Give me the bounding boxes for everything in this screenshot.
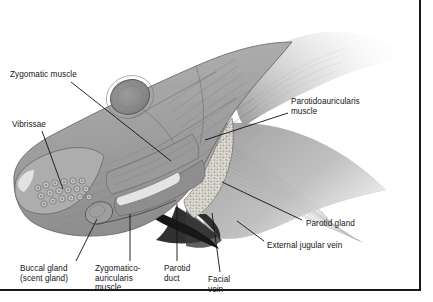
label-parotidoauricularis-muscle-line-2: muscle <box>291 107 360 117</box>
head-dissection-illustration <box>0 0 433 302</box>
label-buccal-gland: Buccal gland(scent gland) <box>20 264 68 283</box>
label-zygomatic-muscle-line-1: Zygomatic muscle <box>10 70 77 80</box>
label-zygomatico-auricularis-muscle-line-2: auricularis <box>95 274 141 284</box>
label-parotid-duct-line-2: duct <box>164 274 190 284</box>
label-facial-vein: Facialvein <box>208 275 230 294</box>
label-vibrissae: Vibrissae <box>12 120 46 130</box>
label-external-jugular-vein: External jugular vein <box>267 241 342 251</box>
label-external-jugular-vein-line-1: External jugular vein <box>267 241 342 251</box>
label-parotid-gland-line-1: Parotid gland <box>306 219 355 229</box>
label-zygomatico-auricularis-muscle-line-3: muscle <box>95 283 141 293</box>
label-parotid-gland: Parotid gland <box>306 219 355 229</box>
label-facial-vein-line-2: vein <box>208 285 230 295</box>
label-zygomatico-auricularis-muscle-line-1: Zygomatico- <box>95 264 141 274</box>
label-zygomatic-muscle: Zygomatic muscle <box>10 70 77 80</box>
label-parotid-duct: Parotidduct <box>164 264 190 283</box>
label-zygomatico-auricularis-muscle: Zygomatico-auricularismuscle <box>95 264 141 293</box>
label-parotidoauricularis-muscle-line-1: Parotidoauricularis <box>291 97 360 107</box>
label-vibrissae-line-1: Vibrissae <box>12 120 46 130</box>
label-facial-vein-line-1: Facial <box>208 275 230 285</box>
anatomical-figure: Zygomatic muscleVibrissaeBuccal gland(sc… <box>0 0 433 302</box>
label-parotid-duct-line-1: Parotid <box>164 264 190 274</box>
label-buccal-gland-line-2: (scent gland) <box>20 274 68 284</box>
label-parotidoauricularis-muscle: Parotidoauricularismuscle <box>291 97 360 116</box>
label-buccal-gland-line-1: Buccal gland <box>20 264 68 274</box>
